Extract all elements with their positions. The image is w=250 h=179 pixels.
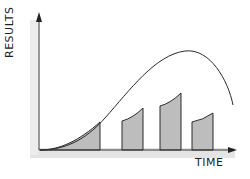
shaded-bar-4 (192, 113, 213, 150)
growth-curve-diagram (0, 0, 250, 179)
y-axis-arrow-icon (36, 12, 42, 22)
shaded-bar-2 (122, 108, 143, 150)
shaded-bar-3 (160, 93, 181, 150)
y-axis-label: RESULTS (3, 7, 16, 58)
shaded-area-initial (40, 122, 100, 150)
x-axis-label: TIME (195, 156, 223, 169)
axis-shadow-vertical (30, 20, 38, 155)
